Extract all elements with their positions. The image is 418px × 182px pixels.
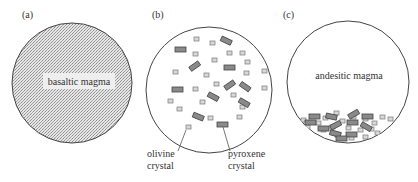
pyroxene-label-line1: pyroxene	[228, 148, 266, 159]
olivine-label-line1: olivine	[147, 148, 175, 159]
magma-crystallisation-diagram: (a) basaltic magma (b)	[0, 0, 418, 182]
panel-b: (b)	[146, 9, 272, 171]
panel-c-label: (c)	[283, 9, 294, 21]
panel-c: (c) andesitic magma	[283, 9, 409, 143]
andesitic-magma-label: andesitic magma	[315, 70, 383, 81]
pyroxene-label-line2: crystal	[228, 160, 255, 171]
panel-a-label: (a)	[22, 9, 33, 21]
olivine-label-line2: crystal	[147, 160, 174, 171]
panel-a: (a) basaltic magma	[12, 9, 132, 143]
magma-chamber-with-crystals	[146, 27, 272, 153]
basaltic-magma-label: basaltic magma	[48, 76, 111, 87]
panel-b-label: (b)	[152, 9, 164, 21]
